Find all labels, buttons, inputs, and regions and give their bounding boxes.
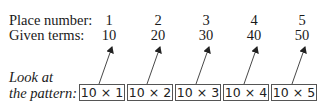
pattern-box-1: 10 × 1	[79, 84, 125, 101]
pattern-box-4: 10 × 4	[223, 84, 269, 101]
pattern-box-2: 10 × 2	[127, 84, 173, 101]
pattern-box-5: 10 × 5	[271, 84, 317, 101]
arrow-icon	[292, 47, 305, 84]
arrow-icon	[147, 47, 160, 84]
arrow-icon	[244, 47, 257, 84]
look-at-label: Look at	[9, 69, 53, 85]
the-pattern-label: the pattern:	[9, 85, 77, 101]
arrow-icon	[196, 47, 209, 84]
arrow-icon	[99, 47, 112, 84]
pattern-box-3: 10 × 3	[175, 84, 221, 101]
